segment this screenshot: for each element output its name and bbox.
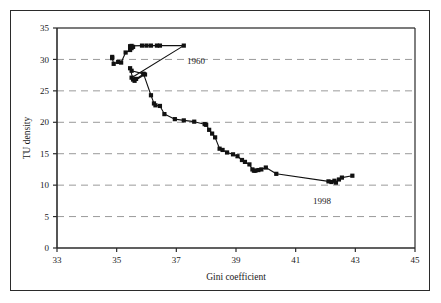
data-point-marker	[213, 135, 217, 139]
data-point-marker	[129, 44, 133, 48]
x-axis-title: Gini coefficient	[206, 272, 266, 282]
x-axis	[53, 28, 415, 252]
data-point-marker	[192, 120, 196, 124]
data-point-marker	[110, 56, 114, 60]
data-point-marker	[149, 93, 153, 97]
data-point-marker	[235, 154, 239, 158]
data-point-marker	[162, 112, 166, 116]
y-tick-label: 5	[45, 212, 50, 222]
data-point-marker	[119, 60, 123, 64]
x-tick-label: 33	[53, 255, 63, 265]
data-point-marker	[134, 77, 138, 81]
data-point-marker	[144, 44, 148, 48]
y-axis	[57, 28, 415, 248]
data-point-marker	[274, 172, 278, 176]
data-point-marker	[182, 44, 186, 48]
y-tick-label: 30	[40, 55, 50, 65]
x-tick-labels: 33353739414345	[53, 255, 421, 265]
y-tick-label: 20	[40, 117, 50, 127]
data-point-marker	[173, 117, 177, 121]
data-point-marker	[182, 118, 186, 122]
data-point-marker	[158, 104, 162, 108]
data-series-markers	[110, 44, 354, 185]
y-tick-labels: 05101520253035	[40, 23, 50, 253]
x-tick-label: 39	[232, 255, 242, 265]
y-tick-label: 35	[40, 23, 50, 33]
data-point-marker	[210, 132, 214, 136]
x-tick-label: 41	[291, 255, 300, 265]
data-point-marker	[243, 160, 247, 164]
x-tick-label: 37	[172, 255, 182, 265]
annotation-1998: 1998	[313, 196, 332, 206]
data-point-marker	[231, 152, 235, 156]
y-tick-label: 0	[45, 243, 50, 253]
data-point-marker	[112, 62, 116, 66]
data-point-marker	[207, 128, 211, 132]
data-point-marker	[124, 50, 128, 54]
x-tick-label: 43	[351, 255, 361, 265]
data-point-marker	[158, 44, 162, 48]
data-point-marker	[247, 162, 251, 166]
data-point-marker	[140, 44, 144, 48]
chart-svg: 05101520253035 33353739414345 Gini coeff…	[0, 0, 441, 303]
data-point-marker	[264, 165, 268, 169]
y-tick-label: 15	[40, 149, 50, 159]
y-axis-title: TU density	[22, 117, 32, 160]
data-point-marker	[220, 148, 224, 152]
data-point-marker	[225, 150, 229, 154]
x-tick-label: 35	[112, 255, 122, 265]
figure-container: 05101520253035 33353739414345 Gini coeff…	[0, 0, 441, 303]
data-point-marker	[259, 167, 263, 171]
data-series-line	[112, 46, 352, 183]
data-point-marker	[141, 72, 145, 76]
y-tick-label: 10	[40, 180, 50, 190]
y-tick-label: 25	[40, 86, 50, 96]
data-point-marker	[129, 69, 133, 73]
data-point-marker	[153, 103, 157, 107]
x-tick-label: 45	[411, 255, 421, 265]
data-point-marker	[149, 44, 153, 48]
annotation-1960: 1960	[187, 56, 206, 66]
data-point-marker	[350, 174, 354, 178]
data-point-marker	[204, 123, 208, 127]
data-point-marker	[340, 176, 344, 180]
